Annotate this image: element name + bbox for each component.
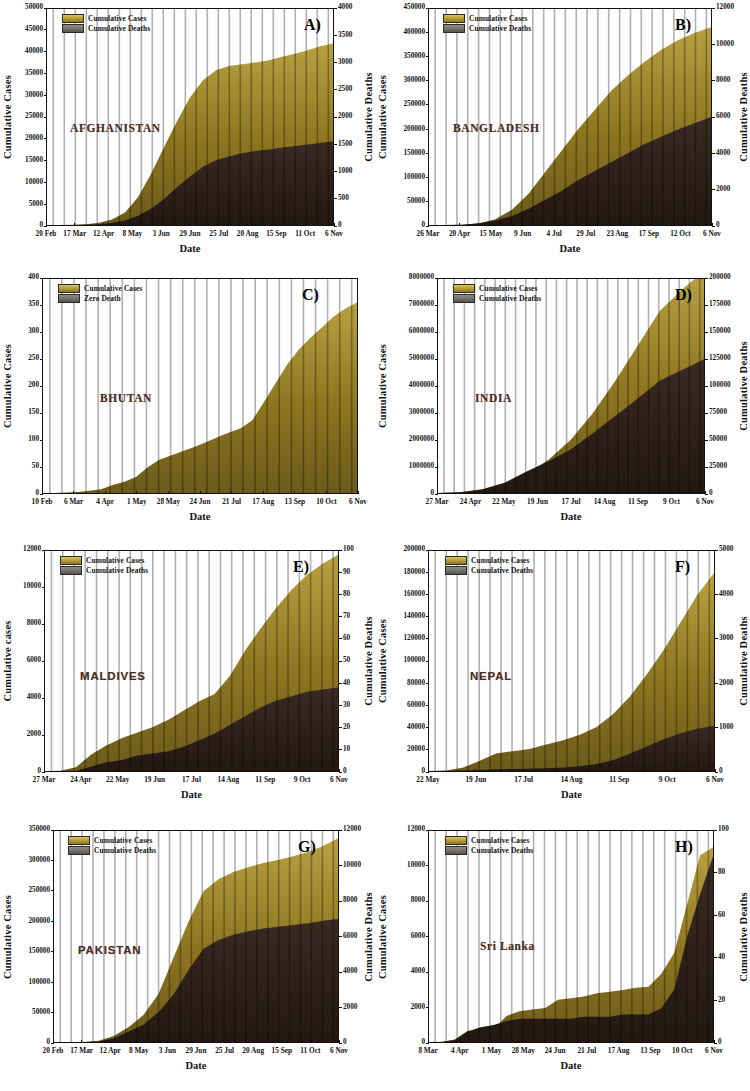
y-tick-left: 100 (6, 436, 39, 443)
y-tick-right: 90 (343, 569, 377, 576)
y-axis-title-right: Cumulative Deaths (363, 892, 374, 981)
x-axis-title: Date (46, 243, 334, 254)
y-tick-right: 175000 (709, 301, 743, 308)
x-tick-label: 11 Sep (628, 498, 648, 505)
x-tick-mark (648, 223, 649, 226)
x-tick-mark (504, 491, 505, 494)
legend-swatch-cases-icon (445, 836, 467, 845)
x-tick-mark (437, 491, 438, 494)
y-tick-left: 50000 (392, 198, 425, 205)
y-tick-left: 5000 (10, 201, 43, 208)
y-tick-mark-right (705, 332, 708, 333)
y-tick-mark-left (435, 467, 438, 468)
legend-swatch-deaths-icon (445, 846, 467, 855)
y-tick-mark-left (426, 972, 429, 973)
x-tick-label: 26 Mar (417, 230, 440, 237)
legend-swatch-cases-icon (445, 556, 467, 565)
x-tick-mark (161, 223, 162, 226)
plot-area (437, 278, 705, 494)
y-tick-right: 0 (343, 768, 377, 775)
x-tick-mark (537, 491, 538, 494)
y-tick-left: 100000 (392, 174, 425, 181)
x-tick-label: 9 Oct (663, 498, 680, 505)
y-tick-left: 160000 (392, 591, 425, 598)
x-tick-label: 22 May (416, 776, 439, 783)
y-tick-mark-left (426, 550, 429, 551)
y-tick-left: 140000 (392, 613, 425, 620)
y-tick-mark-right (334, 35, 337, 36)
y-axis-title-right: Cumulative Deaths (738, 616, 749, 705)
x-tick-label: 19 Jun (527, 498, 548, 505)
legend-swatch-cases-icon (453, 284, 475, 293)
legend-label-deaths: Cumulative Deaths (479, 294, 541, 303)
x-tick-label: 4 Apr (451, 1047, 469, 1054)
x-tick-mark (224, 1040, 225, 1043)
x-tick-mark (247, 223, 248, 226)
y-tick-right: 0 (716, 222, 750, 229)
legend-item-cases: Cumulative Cases (443, 14, 531, 23)
x-tick-label: 8 Mar (418, 1047, 437, 1054)
y-tick-left: 10000 (10, 179, 43, 186)
x-tick-mark (667, 769, 668, 772)
legend-item-deaths: Cumulative Deaths (443, 24, 531, 33)
x-tick-mark (617, 223, 618, 226)
legend-label-deaths: Cumulative Deaths (94, 846, 156, 855)
legend-swatch-cases-icon (68, 836, 90, 845)
legend-label-deaths: Zero Death (84, 294, 121, 303)
x-tick-mark (428, 769, 429, 772)
x-tick-mark (196, 1040, 197, 1043)
legend: Cumulative CasesCumulative Deaths (62, 14, 150, 33)
x-tick-mark (491, 1040, 492, 1043)
chart-panel-maldives: 0200040006000800010000120000102030405060… (0, 542, 375, 822)
y-tick-right: 12000 (716, 4, 750, 11)
y-tick-mark-left (426, 749, 429, 750)
country-label: NEPAL (470, 670, 512, 682)
y-tick-left: 8000 (392, 897, 425, 904)
x-tick-mark (191, 769, 192, 772)
y-axis-title-left: Cumulative Cases (2, 344, 13, 428)
y-tick-right: 20 (718, 997, 750, 1004)
x-tick-mark (470, 491, 471, 494)
x-tick-mark (334, 223, 335, 226)
y-tick-mark-left (426, 8, 429, 9)
y-tick-mark-left (44, 160, 47, 161)
y-tick-mark-right (339, 661, 342, 662)
x-axis-title: Date (428, 1060, 714, 1071)
x-tick-label: 11 Oct (295, 230, 315, 237)
y-tick-mark-right (714, 957, 717, 958)
y-tick-mark-left (44, 29, 47, 30)
legend: Cumulative CasesCumulative Deaths (68, 836, 156, 855)
y-tick-left: 180000 (392, 569, 425, 576)
legend-item-deaths: Cumulative Deaths (60, 566, 148, 575)
x-tick-label: 4 Apr (96, 498, 114, 505)
legend-item-deaths: Cumulative Deaths (445, 846, 533, 855)
y-tick-left: 6000 (392, 933, 425, 940)
y-tick-left: 200000 (17, 918, 50, 925)
panel-letter: D) (675, 286, 692, 304)
y-tick-left: 15000 (10, 157, 43, 164)
y-tick-mark-left (44, 204, 47, 205)
y-tick-left: 40000 (392, 724, 425, 731)
chart-panel-bhutan: 05010015020025030035040010 Feb6 Mar4 Apr… (0, 270, 375, 542)
y-tick-left: 45000 (10, 26, 43, 33)
y-tick-mark-left (51, 921, 54, 922)
legend-label-cases: Cumulative Cases (479, 284, 537, 293)
x-tick-label: 10 Oct (672, 1047, 692, 1054)
x-tick-label: 6 Nov (330, 776, 348, 783)
y-tick-left: 1000000 (401, 463, 434, 470)
y-tick-mark-left (42, 624, 45, 625)
x-tick-mark (281, 1040, 282, 1043)
x-tick-label: 6 Nov (696, 498, 714, 505)
y-tick-left: 7000000 (401, 301, 434, 308)
y-tick-mark-right (334, 117, 337, 118)
y-tick-left: 10000 (8, 583, 41, 590)
y-tick-mark-left (40, 440, 43, 441)
x-tick-mark (522, 223, 523, 226)
x-tick-label: 1 May (127, 498, 147, 505)
x-tick-label: 20 Aug (237, 230, 259, 237)
x-tick-mark (265, 769, 266, 772)
y-tick-mark-left (42, 661, 45, 662)
y-tick-mark-left (426, 638, 429, 639)
y-tick-mark-right (712, 44, 715, 45)
series-layer (429, 831, 713, 1042)
